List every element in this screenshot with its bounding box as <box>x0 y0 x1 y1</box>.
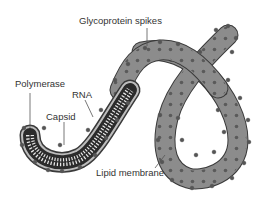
label-polymerase: Polymerase <box>15 79 65 89</box>
label-glycoprotein-spikes: Glycoprotein spikes <box>79 16 162 26</box>
label-lipid-membrane: Lipid membrane <box>96 168 164 178</box>
leader-rna <box>85 100 93 117</box>
label-rna: RNA <box>72 90 92 100</box>
virus-diagram: Glycoprotein spikes Polymerase RNA Capsi… <box>0 0 259 204</box>
label-capsid: Capsid <box>46 112 76 122</box>
virion-body <box>30 35 238 179</box>
